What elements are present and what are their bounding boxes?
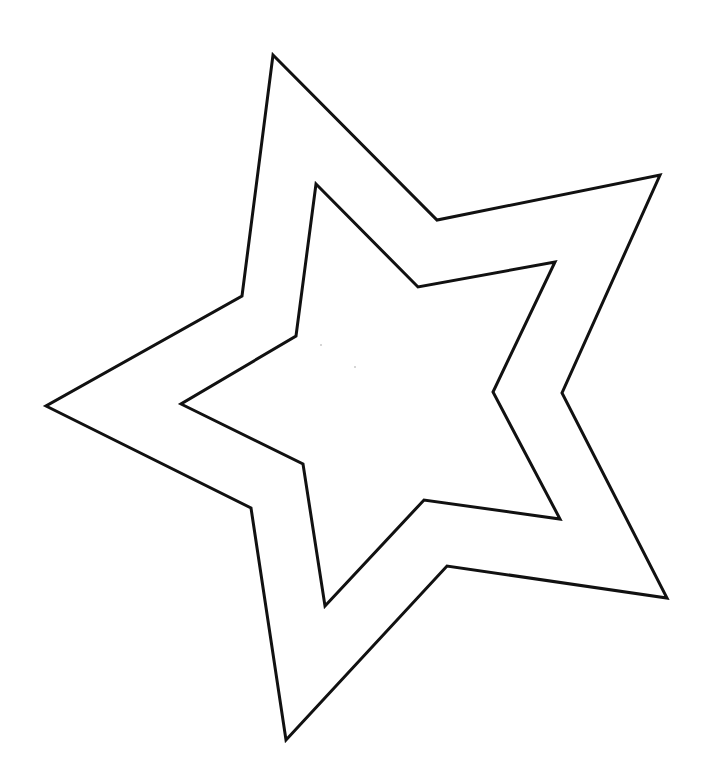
star-outline-drawing bbox=[0, 0, 706, 781]
paper-background bbox=[0, 0, 706, 781]
paper-speck bbox=[320, 344, 322, 346]
paper-speck bbox=[354, 366, 356, 368]
